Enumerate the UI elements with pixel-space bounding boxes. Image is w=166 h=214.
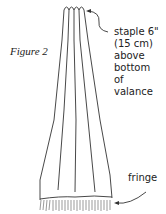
- fringe-label: fringe: [128, 172, 157, 184]
- fringe-arrowhead-icon: [114, 201, 119, 205]
- left-edge: [40, 10, 64, 200]
- figure-caption: Figure 2: [10, 45, 48, 57]
- staple-label-line: (15 cm): [114, 38, 159, 50]
- staple-label-line: above: [114, 50, 159, 62]
- staple-label-line: valance: [114, 86, 159, 98]
- staple-label-line: bottom: [114, 62, 159, 74]
- staple-label-line: staple 6": [114, 26, 159, 38]
- staple-arrowhead-icon: [86, 9, 91, 13]
- staple-label-line: of: [114, 74, 159, 86]
- staple-label: staple 6" (15 cm) above bottom of valanc…: [114, 26, 159, 98]
- right-edge: [84, 10, 112, 198]
